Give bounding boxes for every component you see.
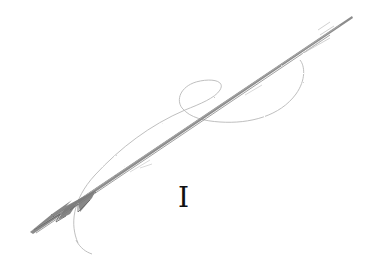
card-caption: I	[178, 184, 189, 212]
harpoon-illustration	[0, 0, 376, 261]
rope-line	[74, 60, 304, 254]
